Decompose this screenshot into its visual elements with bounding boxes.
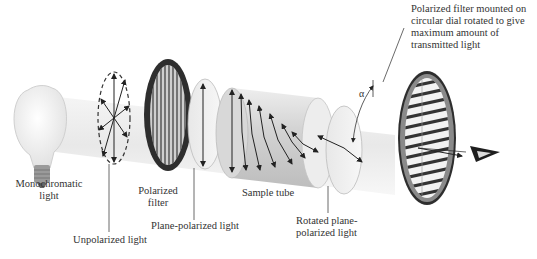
label-unpolarized-light: Unpolarized light xyxy=(70,234,150,246)
label-line: polarized light xyxy=(296,227,358,239)
eye-icon xyxy=(470,146,500,162)
label-line: light xyxy=(8,190,90,202)
label-line: maximum amount of xyxy=(411,27,526,39)
label-line: Polarized xyxy=(133,185,183,197)
label-polarized-filter: Polarized filter xyxy=(133,185,183,209)
label-line: circular dial rotated to give xyxy=(411,15,526,27)
label-line: Monochromatic xyxy=(8,178,90,190)
label-rotated-plane-polarized-light: Rotated plane- polarized light xyxy=(296,215,358,239)
label-plane-polarized-light: Plane-polarized light xyxy=(148,220,242,232)
analyzer-filter xyxy=(395,66,460,210)
label-monochromatic-light: Monochromatic light xyxy=(8,178,90,202)
polarizer-filter xyxy=(144,59,192,171)
label-analyzer-filter: Polarized filter mounted on circular dia… xyxy=(411,3,526,51)
label-line: Polarized filter mounted on xyxy=(411,3,526,15)
label-line: Rotated plane- xyxy=(296,215,358,227)
label-sample-tube: Sample tube xyxy=(238,187,298,199)
sample-tube xyxy=(216,88,334,188)
light-bulb-icon xyxy=(14,86,67,188)
label-line: filter xyxy=(133,197,183,209)
optical-rotation-diagram: Monochromatic light Unpolarized light Po… xyxy=(0,0,537,259)
label-line: transmitted light xyxy=(411,39,526,51)
label-alpha-angle: α xyxy=(359,88,364,100)
